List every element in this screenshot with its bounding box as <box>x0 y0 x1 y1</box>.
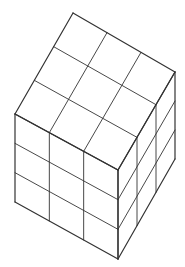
left-face-gridline <box>15 202 118 259</box>
left-face-gridline <box>15 143 118 199</box>
top-face-gridline <box>84 52 141 151</box>
right-face-gridline <box>118 130 175 229</box>
right-face-gridline <box>118 72 175 170</box>
top-face-gridline <box>49 33 107 133</box>
right-face-gridline <box>118 101 175 200</box>
left-face-gridline <box>15 114 118 170</box>
top-face-gridline <box>73 13 175 72</box>
cube-diagram <box>0 0 185 267</box>
top-face-gridline <box>15 13 73 114</box>
left-face-gridline <box>15 173 118 230</box>
top-face-gridline <box>34 80 137 137</box>
top-face-gridline <box>54 47 156 105</box>
right-face-gridline <box>118 159 175 259</box>
